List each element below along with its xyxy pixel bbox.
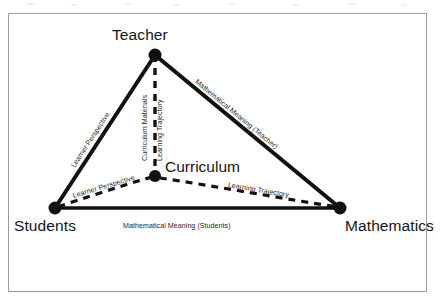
node-dot-students [49,202,62,215]
node-label-mathematics: Mathematics [345,217,434,235]
node-dot-curriculum [149,170,161,182]
node-label-students: Students [14,217,76,235]
figure-root: Teacher Students Mathematics Curriculum … [0,0,441,306]
edge-label-curriculum-materials: Curriculum Materials [141,95,149,161]
node-label-teacher: Teacher [112,26,168,44]
node-label-curriculum: Curriculum [165,158,240,176]
node-dot-mathematics [334,202,347,215]
edge-label-mathematical-meaning-students: Mathematical Meaning (Students) [123,222,231,230]
instructional-triangle-diagram [0,0,441,306]
node-dot-teacher [149,49,162,62]
edge-label-learning-trajectory-teacher-curriculum: Learning Trajectory [156,99,164,161]
